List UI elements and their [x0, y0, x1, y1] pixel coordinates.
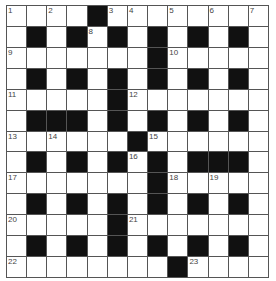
answer-cell[interactable]: 21	[128, 215, 147, 235]
answer-cell[interactable]	[27, 173, 46, 193]
answer-cell[interactable]: 16	[128, 152, 147, 172]
answer-cell[interactable]	[249, 152, 268, 172]
answer-cell[interactable]	[47, 27, 66, 47]
answer-cell[interactable]	[7, 194, 26, 214]
answer-cell[interactable]	[108, 257, 127, 277]
answer-cell[interactable]: 23	[188, 257, 207, 277]
answer-cell[interactable]	[249, 257, 268, 277]
answer-cell[interactable]	[249, 48, 268, 68]
answer-cell[interactable]	[67, 132, 86, 152]
answer-cell[interactable]	[249, 27, 268, 47]
answer-cell[interactable]	[168, 132, 187, 152]
answer-cell[interactable]	[168, 27, 187, 47]
answer-cell[interactable]	[67, 48, 86, 68]
answer-cell[interactable]	[47, 257, 66, 277]
answer-cell[interactable]	[229, 215, 248, 235]
answer-cell[interactable]	[128, 111, 147, 131]
answer-cell[interactable]	[209, 257, 228, 277]
answer-cell[interactable]	[88, 257, 107, 277]
answer-cell[interactable]	[27, 6, 46, 26]
answer-cell[interactable]	[209, 215, 228, 235]
answer-cell[interactable]	[209, 69, 228, 89]
answer-cell[interactable]	[128, 48, 147, 68]
answer-cell[interactable]	[88, 236, 107, 256]
answer-cell[interactable]: 1	[7, 6, 26, 26]
answer-cell[interactable]	[128, 257, 147, 277]
answer-cell[interactable]	[128, 69, 147, 89]
answer-cell[interactable]	[47, 215, 66, 235]
answer-cell[interactable]	[7, 152, 26, 172]
answer-cell[interactable]	[128, 194, 147, 214]
answer-cell[interactable]	[47, 236, 66, 256]
answer-cell[interactable]	[249, 69, 268, 89]
answer-cell[interactable]: 6	[209, 6, 228, 26]
answer-cell[interactable]	[249, 111, 268, 131]
answer-cell[interactable]	[108, 173, 127, 193]
answer-cell[interactable]	[168, 236, 187, 256]
answer-cell[interactable]: 15	[148, 132, 167, 152]
answer-cell[interactable]	[88, 111, 107, 131]
answer-cell[interactable]	[188, 90, 207, 110]
answer-cell[interactable]	[229, 90, 248, 110]
answer-cell[interactable]	[88, 132, 107, 152]
answer-cell[interactable]	[88, 69, 107, 89]
answer-cell[interactable]: 12	[128, 90, 147, 110]
answer-cell[interactable]	[27, 90, 46, 110]
answer-cell[interactable]	[128, 173, 147, 193]
answer-cell[interactable]	[7, 111, 26, 131]
answer-cell[interactable]	[229, 132, 248, 152]
answer-cell[interactable]	[88, 152, 107, 172]
answer-cell[interactable]	[67, 6, 86, 26]
answer-cell[interactable]	[47, 90, 66, 110]
answer-cell[interactable]: 5	[168, 6, 187, 26]
answer-cell[interactable]	[7, 69, 26, 89]
answer-cell[interactable]	[7, 27, 26, 47]
answer-cell[interactable]: 14	[47, 132, 66, 152]
answer-cell[interactable]	[188, 6, 207, 26]
answer-cell[interactable]	[88, 48, 107, 68]
answer-cell[interactable]	[27, 257, 46, 277]
answer-cell[interactable]	[168, 152, 187, 172]
answer-cell[interactable]	[88, 215, 107, 235]
answer-cell[interactable]	[108, 132, 127, 152]
answer-cell[interactable]: 4	[128, 6, 147, 26]
answer-cell[interactable]	[229, 173, 248, 193]
answer-cell[interactable]	[47, 48, 66, 68]
answer-cell[interactable]: 9	[7, 48, 26, 68]
answer-cell[interactable]: 2	[47, 6, 66, 26]
answer-cell[interactable]: 19	[209, 173, 228, 193]
answer-cell[interactable]	[47, 152, 66, 172]
answer-cell[interactable]	[148, 6, 167, 26]
answer-cell[interactable]	[188, 48, 207, 68]
answer-cell[interactable]	[128, 236, 147, 256]
answer-cell[interactable]	[27, 215, 46, 235]
answer-cell[interactable]	[188, 132, 207, 152]
answer-cell[interactable]: 11	[7, 90, 26, 110]
answer-cell[interactable]	[88, 90, 107, 110]
answer-cell[interactable]	[249, 236, 268, 256]
answer-cell[interactable]	[249, 90, 268, 110]
answer-cell[interactable]	[188, 173, 207, 193]
answer-cell[interactable]	[108, 48, 127, 68]
answer-cell[interactable]	[209, 111, 228, 131]
answer-cell[interactable]	[249, 173, 268, 193]
answer-cell[interactable]	[27, 132, 46, 152]
answer-cell[interactable]	[128, 27, 147, 47]
answer-cell[interactable]	[209, 27, 228, 47]
answer-cell[interactable]	[67, 215, 86, 235]
answer-cell[interactable]	[209, 194, 228, 214]
answer-cell[interactable]: 8	[88, 27, 107, 47]
answer-cell[interactable]	[168, 111, 187, 131]
answer-cell[interactable]	[249, 132, 268, 152]
answer-cell[interactable]	[67, 90, 86, 110]
answer-cell[interactable]	[168, 90, 187, 110]
answer-cell[interactable]	[229, 257, 248, 277]
answer-cell[interactable]: 3	[108, 6, 127, 26]
answer-cell[interactable]	[209, 132, 228, 152]
answer-cell[interactable]	[148, 257, 167, 277]
answer-cell[interactable]	[47, 69, 66, 89]
answer-cell[interactable]	[229, 48, 248, 68]
answer-cell[interactable]	[168, 215, 187, 235]
answer-cell[interactable]	[209, 236, 228, 256]
answer-cell[interactable]: 20	[7, 215, 26, 235]
